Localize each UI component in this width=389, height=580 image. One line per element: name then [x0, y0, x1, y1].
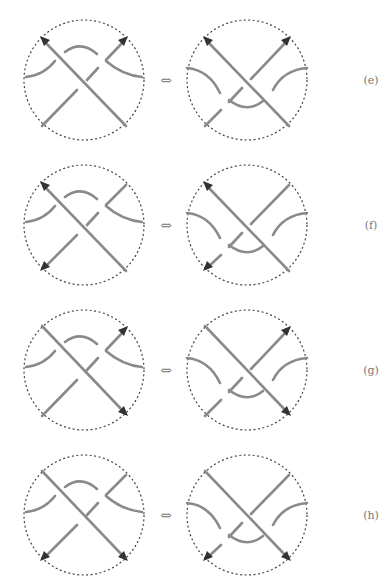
- reidemeister-move-figure: ⇔ (e) ⇔: [0, 0, 389, 580]
- row-h: ⇔ (h): [0, 435, 389, 580]
- row-g: ⇔ (g): [0, 290, 389, 435]
- equivalence-symbol: ⇔: [155, 507, 177, 523]
- crossing-diagram: [24, 165, 144, 285]
- crossing-diagram: [24, 20, 144, 140]
- row-f: ⇔ (f): [0, 145, 389, 290]
- row-label: (g): [356, 364, 386, 378]
- row-label: (h): [356, 509, 386, 523]
- equivalence-symbol: ⇔: [155, 72, 177, 88]
- diagram-right-h: [185, 453, 309, 577]
- crossing-diagram: [187, 455, 307, 575]
- diagram-right-e: [185, 18, 309, 142]
- crossing-diagram: [187, 20, 307, 140]
- crossing-diagram: [24, 310, 144, 430]
- row-label: (f): [356, 219, 386, 233]
- diagram-right-f: [185, 163, 309, 287]
- crossing-diagram: [187, 165, 307, 285]
- row-label: (e): [356, 74, 386, 88]
- diagram-left-e: [22, 18, 146, 142]
- equivalence-symbol: ⇔: [155, 217, 177, 233]
- row-e: ⇔ (e): [0, 0, 389, 145]
- diagram-left-f: [22, 163, 146, 287]
- diagram-left-g: [22, 308, 146, 432]
- crossing-diagram: [24, 455, 144, 575]
- diagram-right-g: [185, 308, 309, 432]
- diagram-left-h: [22, 453, 146, 577]
- equivalence-symbol: ⇔: [155, 362, 177, 378]
- crossing-diagram: [187, 310, 307, 430]
